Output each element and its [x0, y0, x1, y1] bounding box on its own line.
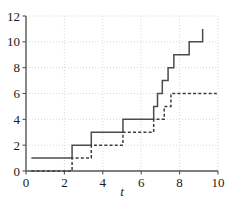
x-tick-label: 2	[61, 175, 68, 190]
series-dashed-step	[31, 94, 218, 172]
y-tick-label: 8	[14, 60, 21, 75]
y-tick-label: 4	[14, 112, 21, 127]
x-axis-label: t	[120, 184, 124, 199]
x-tick-label: 4	[100, 175, 107, 190]
plot-area: 024681012 0246810 t	[0, 0, 234, 201]
y-tick-label: 6	[14, 86, 21, 101]
x-tick-label: 8	[176, 175, 183, 190]
y-tick-label: 2	[14, 138, 21, 153]
step-function-chart: 024681012 0246810 t	[0, 0, 234, 201]
tick-marks	[23, 16, 219, 175]
data-series	[31, 29, 218, 171]
y-tick-label: 10	[7, 34, 20, 49]
y-tick-labels: 024681012	[7, 9, 21, 179]
x-tick-label: 10	[212, 175, 225, 190]
y-tick-label: 12	[7, 9, 20, 24]
x-tick-label: 0	[23, 175, 30, 190]
y-tick-label: 0	[14, 164, 21, 179]
x-tick-label: 6	[138, 175, 145, 190]
